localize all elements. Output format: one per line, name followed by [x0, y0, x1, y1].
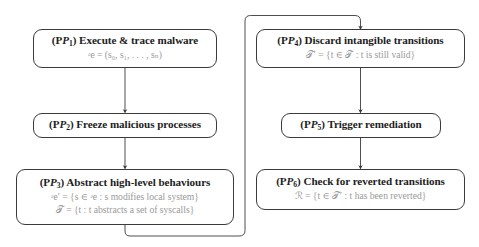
node-p1-label: Execute & trace malware: [79, 34, 198, 46]
node-p2-title: (PP2) Freeze malicious processes: [49, 118, 201, 132]
node-p5-title: (PP5) Trigger remediation: [300, 118, 421, 132]
node-p1-title: (PP1) Execute & trace malware: [52, 34, 198, 48]
node-p4-title: (PP4) Discard intangible transitions: [277, 34, 443, 48]
node-p1[interactable]: (PP1) Execute & trace malware ᵊe = (s₀, …: [33, 29, 217, 68]
node-p3-math-0: ᵊe′ = {s ∈ ᵊe : s modifies local system}: [51, 191, 199, 204]
node-p3-title: (PP3) Abstract high-level behaviours: [40, 176, 211, 190]
node-p3-label: Abstract high-level behaviours: [66, 176, 210, 188]
node-p3-math-1: 𝒯 = {t : t abstracts a set of syscalls}: [56, 204, 195, 217]
node-p4[interactable]: (PP4) Discard intangible transitions 𝒯′ …: [256, 29, 465, 68]
node-p6-title: (PP6) Check for reverted transitions: [276, 175, 445, 189]
node-p4-label: Discard intangible transitions: [305, 34, 444, 46]
node-p5[interactable]: (PP5) Trigger remediation: [281, 113, 441, 138]
node-p4-math-0: 𝒯′ = {t ∈ 𝒯 : t is still valid}: [306, 49, 415, 62]
node-p6[interactable]: (PP6) Check for reverted transitions ℛ =…: [256, 169, 465, 210]
node-p2[interactable]: (PP2) Freeze malicious processes: [33, 113, 217, 138]
node-p6-label: Check for reverted transitions: [303, 175, 444, 187]
node-p2-label: Freeze malicious processes: [76, 118, 201, 130]
node-p5-label: Trigger remediation: [327, 118, 421, 130]
flowchart-diagram: (PP1) Execute & trace malware ᵊe = (s₀, …: [0, 0, 479, 247]
node-p1-math-0: ᵊe = (s₀, s₁, . . . , sₙ): [88, 49, 162, 62]
node-p6-math-0: ℛ = {t ∈ 𝒯′ : t has been reverted}: [295, 190, 427, 203]
node-p3[interactable]: (PP3) Abstract high-level behaviours ᵊe′…: [16, 169, 234, 225]
